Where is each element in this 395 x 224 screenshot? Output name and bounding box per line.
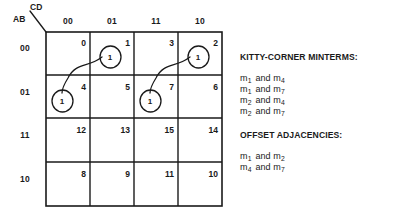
cell-index-12: 12 <box>48 125 86 135</box>
cell-index-3: 3 <box>136 38 174 48</box>
term-symbol: m <box>240 84 248 94</box>
marked-one-circles <box>52 46 209 112</box>
subscript-left: 4 <box>248 166 254 173</box>
axis-diagonal-line <box>30 11 46 32</box>
legend-spacer-1 <box>240 62 392 73</box>
cell-index-0: 0 <box>48 38 86 48</box>
cell-index-4: 4 <box>48 82 86 92</box>
subscript-right: 7 <box>281 110 287 117</box>
cell-index-9: 9 <box>92 169 130 179</box>
row-header-3: 10 <box>10 174 40 184</box>
cell-index-11: 11 <box>136 169 174 179</box>
conjunction: and <box>256 84 271 94</box>
column-header-3: 10 <box>178 16 222 26</box>
row-header-0: 00 <box>10 43 40 53</box>
column-header-1: 01 <box>90 16 134 26</box>
subscript-left: 1 <box>248 77 254 84</box>
column-header-2: 11 <box>134 16 178 26</box>
cell-index-7: 7 <box>136 82 174 92</box>
subscript-right: 4 <box>281 99 287 106</box>
cell-index-8: 8 <box>48 169 86 179</box>
column-header-0: 00 <box>46 16 90 26</box>
offset-adjacency-pair-list: m1 and m2 m4 and m7 <box>240 151 392 173</box>
kitty-corner-pair-1: m1 and m4 <box>240 73 392 84</box>
subscript-right: 7 <box>281 88 287 95</box>
cell-index-14: 14 <box>180 125 218 135</box>
cell-value-m7: 1 <box>142 97 158 106</box>
cell-index-5: 5 <box>92 82 130 92</box>
subscript-left: 1 <box>248 155 254 162</box>
term-symbol: m <box>273 162 281 172</box>
term-symbol: m <box>273 95 281 105</box>
conjunction: and <box>256 95 271 105</box>
term-symbol: m <box>240 106 248 116</box>
kmap-figure: CD AB 00 01 11 10 00 01 11 10 0 1 3 2 4 … <box>0 0 395 224</box>
term-symbol: m <box>273 73 281 83</box>
kitty-corner-pair-2: m1 and m7 <box>240 84 392 95</box>
offset-adjacencies-heading: OFFSET ADJACENCIES: <box>240 130 392 140</box>
row-header-1: 01 <box>10 87 40 97</box>
cell-value-m4: 1 <box>54 97 70 106</box>
conjunction: and <box>256 151 271 161</box>
conjunction: and <box>256 106 271 116</box>
kitty-corner-pair-list: m1 and m4 m1 and m7 m2 and m4 m2 and m7 <box>240 73 392 117</box>
subscript-right: 7 <box>281 166 287 173</box>
legend-panel: KITTY-CORNER MINTERMS: m1 and m4 m1 and … <box>240 52 392 173</box>
cell-index-1: 1 <box>92 38 130 48</box>
offset-adjacency-pair-1: m1 and m2 <box>240 151 392 162</box>
axis-label-ab: AB <box>13 14 26 24</box>
subscript-right: 4 <box>281 77 287 84</box>
legend-spacer-3 <box>240 140 392 151</box>
conjunction: and <box>256 73 271 83</box>
cell-value-m1: 1 <box>102 53 118 62</box>
cell-index-6: 6 <box>180 82 218 92</box>
cell-index-13: 13 <box>92 125 130 135</box>
subscript-left: 2 <box>248 110 254 117</box>
subscript-left: 1 <box>248 88 254 95</box>
term-symbol: m <box>273 106 281 116</box>
axis-label-cd: CD <box>30 2 43 12</box>
conjunction: and <box>256 162 271 172</box>
term-symbol: m <box>240 73 248 83</box>
kitty-corner-pair-3: m2 and m4 <box>240 95 392 106</box>
legend-spacer-2 <box>240 117 392 130</box>
term-symbol: m <box>240 95 248 105</box>
term-symbol: m <box>273 151 281 161</box>
kitty-corner-pair-4: m2 and m7 <box>240 106 392 117</box>
term-symbol: m <box>240 151 248 161</box>
subscript-left: 2 <box>248 99 254 106</box>
row-header-2: 11 <box>10 130 40 140</box>
subscript-right: 2 <box>281 155 287 162</box>
cell-value-m2: 1 <box>190 53 206 62</box>
cell-index-10: 10 <box>180 169 218 179</box>
cell-index-15: 15 <box>136 125 174 135</box>
offset-adjacency-pair-2: m4 and m7 <box>240 162 392 173</box>
term-symbol: m <box>273 84 281 94</box>
term-symbol: m <box>240 162 248 172</box>
kitty-corner-heading: KITTY-CORNER MINTERMS: <box>240 52 392 62</box>
cell-index-2: 2 <box>180 38 218 48</box>
